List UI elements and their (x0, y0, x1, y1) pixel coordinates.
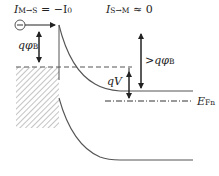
quasi-fermi-label: EFn (197, 96, 215, 107)
current-m-to-s-label: IM→S = −I0 (14, 4, 72, 15)
barrier-label: qφB (18, 40, 38, 51)
bias-label: qV (107, 76, 122, 87)
band-diagram: IM→S = −I0 IS→M ≈ 0 qφB >qφB qV EFn (0, 0, 219, 176)
larger-barrier-label: >qφB (145, 55, 174, 66)
current-s-to-m-label: IS→M ≈ 0 (106, 4, 153, 15)
metal-region (16, 67, 59, 128)
band-diagram-graphic (0, 0, 219, 176)
valence-band (59, 98, 193, 160)
